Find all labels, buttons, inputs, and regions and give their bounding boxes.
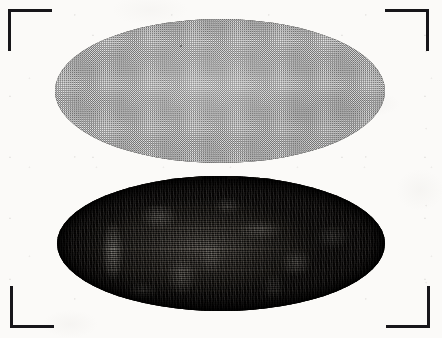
crop-mark-arm-horizontal bbox=[385, 9, 429, 12]
crop-mark-bottom-right bbox=[386, 286, 430, 328]
scan-edge-nibble bbox=[228, 176, 238, 179]
crop-mark-arm-vertical bbox=[8, 9, 11, 51]
scan-edge-nibble bbox=[293, 176, 302, 178]
scan-edge-nibble bbox=[188, 176, 202, 180]
crop-mark-arm-vertical bbox=[10, 286, 13, 328]
crop-mark-arm-horizontal bbox=[10, 325, 54, 328]
crop-mark-arm-horizontal bbox=[8, 9, 52, 12]
crop-mark-top-left bbox=[8, 9, 52, 51]
crop-mark-arm-vertical bbox=[427, 286, 430, 328]
crop-mark-arm-vertical bbox=[426, 9, 429, 51]
upper-oval-figure bbox=[55, 19, 385, 163]
lower-oval-figure bbox=[57, 176, 385, 311]
figure-plate bbox=[0, 0, 442, 338]
scan-edge-nibble bbox=[155, 176, 163, 179]
scan-edge-nibble bbox=[257, 176, 273, 179]
crop-mark-arm-horizontal bbox=[386, 325, 430, 328]
crop-mark-bottom-left bbox=[10, 286, 54, 328]
halftone-tone-variation bbox=[55, 19, 385, 163]
scan-edge-nibble bbox=[132, 176, 139, 178]
edge-vignette bbox=[57, 176, 385, 311]
crop-mark-top-right bbox=[385, 9, 429, 51]
